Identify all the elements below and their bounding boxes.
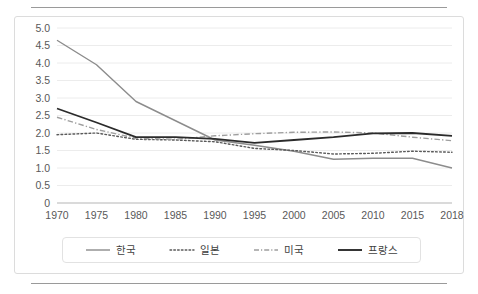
x-tick-label: 1980 bbox=[124, 209, 148, 221]
top-divider-rule bbox=[31, 7, 447, 8]
x-tick-label: 1990 bbox=[203, 209, 227, 221]
y-tick-label: 1.5 bbox=[35, 144, 50, 156]
x-tick-label: 2000 bbox=[282, 209, 306, 221]
x-tick-label: 2015 bbox=[401, 209, 425, 221]
y-tick-label: 4.5 bbox=[35, 39, 50, 51]
x-tick-label: 1985 bbox=[164, 209, 188, 221]
chart-figure-frame: 00.51.01.52.02.53.03.54.04.55.0197019751… bbox=[14, 16, 464, 274]
y-tick-label: 3.0 bbox=[35, 92, 50, 104]
x-tick-label: 1995 bbox=[243, 209, 267, 221]
y-tick-label: 0.5 bbox=[35, 179, 50, 191]
bottom-divider-rule bbox=[31, 283, 447, 284]
legend-label-2: 미국 bbox=[284, 245, 304, 256]
y-tick-label: 4.0 bbox=[35, 57, 50, 69]
y-tick-label: 3.5 bbox=[35, 74, 50, 86]
legend-item-0[interactable]: 한국 bbox=[85, 245, 136, 256]
x-tick-label: 1970 bbox=[45, 209, 69, 221]
solid-line-swatch bbox=[85, 245, 111, 255]
chart-legend: 한국 일본 미국 프랑스 bbox=[62, 237, 421, 263]
dashdot-line-swatch bbox=[253, 245, 279, 255]
y-tick-label: 1.0 bbox=[35, 162, 50, 174]
x-tick-label: 2010 bbox=[361, 209, 385, 221]
series-line-3 bbox=[57, 109, 452, 143]
legend-label-3: 프랑스 bbox=[368, 245, 398, 256]
chart-page: 00.51.01.52.02.53.03.54.04.55.0197019751… bbox=[0, 0, 478, 294]
y-tick-label: 0 bbox=[44, 197, 50, 209]
legend-item-2[interactable]: 미국 bbox=[253, 245, 304, 256]
legend-item-3[interactable]: 프랑스 bbox=[337, 245, 398, 256]
solid-bold-line-swatch bbox=[337, 245, 363, 255]
legend-item-1[interactable]: 일본 bbox=[169, 245, 220, 256]
dotted-line-swatch bbox=[169, 245, 195, 255]
y-tick-label: 2.0 bbox=[35, 127, 50, 139]
x-tick-label: 2005 bbox=[322, 209, 346, 221]
x-tick-label: 2018 bbox=[440, 209, 464, 221]
y-tick-label: 2.5 bbox=[35, 109, 50, 121]
y-tick-label: 5.0 bbox=[35, 22, 50, 34]
x-tick-label: 1975 bbox=[85, 209, 109, 221]
legend-label-1: 일본 bbox=[200, 245, 220, 256]
legend-label-0: 한국 bbox=[116, 245, 136, 256]
series-line-0 bbox=[57, 40, 452, 168]
